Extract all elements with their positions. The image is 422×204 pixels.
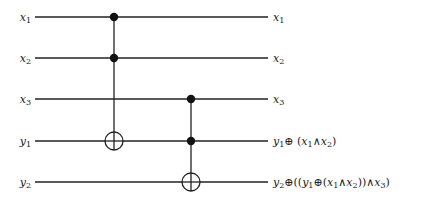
toffoli-2-gate	[182, 95, 200, 191]
output-label-y2: y2⊕((y1⊕(x1∧x2))∧x3)	[272, 176, 390, 190]
input-label-y1: y1	[19, 135, 31, 149]
toffoli-1-gate	[105, 13, 123, 150]
input-label-x2: x2	[20, 52, 31, 66]
control-dot-icon	[187, 137, 195, 145]
output-label-x3: x3	[273, 93, 284, 107]
output-label-x2: x2	[273, 52, 284, 66]
control-dot-icon	[187, 95, 195, 103]
quantum-circuit-diagram: x1x2x3y1y2 x1x2x3y1⊕ (x1∧x2)y2⊕((y1⊕(x1∧…	[0, 0, 422, 204]
output-label-x1: x1	[273, 11, 284, 25]
input-label-y2: y2	[19, 176, 31, 190]
gates	[105, 13, 200, 191]
wires	[35, 17, 268, 182]
output-label-y1: y1⊕ (x1∧x2)	[272, 135, 336, 149]
control-dot-icon	[110, 13, 118, 21]
control-dot-icon	[110, 54, 118, 62]
input-labels: x1x2x3y1y2	[19, 11, 31, 190]
output-labels: x1x2x3y1⊕ (x1∧x2)y2⊕((y1⊕(x1∧x2))∧x3)	[272, 11, 390, 190]
input-label-x1: x1	[20, 11, 31, 25]
input-label-x3: x3	[20, 93, 31, 107]
